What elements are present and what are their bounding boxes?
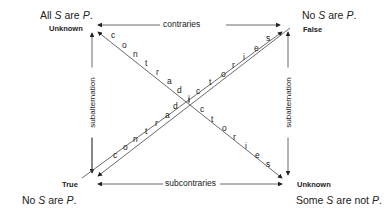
value-o: Unknown	[297, 180, 331, 189]
value-a: Unknown	[49, 24, 83, 33]
proposition-i: No S are P.	[22, 194, 76, 206]
value-e: False	[303, 25, 322, 34]
label-subalternation-left: subalternation	[88, 68, 97, 138]
proposition-e: No S are P.	[302, 9, 356, 21]
label-subalternation-right: subalternation	[284, 68, 293, 138]
proposition-o: Some S are not P.	[296, 194, 382, 206]
value-i: True	[62, 180, 78, 189]
proposition-a: All S are P.	[40, 9, 93, 21]
label-subcontraries: subcontraries	[163, 178, 218, 188]
label-contraries: contraries	[161, 19, 202, 29]
